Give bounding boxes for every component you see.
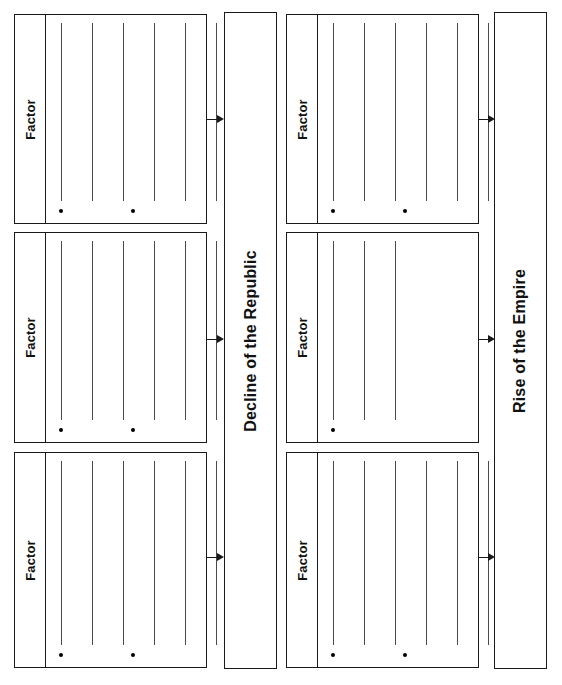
factor-write-area[interactable] bbox=[318, 453, 478, 667]
bullet-point bbox=[331, 653, 335, 657]
factor-header-strip: Factor bbox=[287, 15, 318, 223]
writing-rule bbox=[488, 23, 489, 201]
bullet-point bbox=[59, 428, 63, 432]
writing-rule bbox=[154, 241, 155, 420]
writing-rule bbox=[92, 241, 93, 420]
arrow-head bbox=[488, 553, 495, 561]
factor-card-left-factor-1[interactable]: Factor bbox=[14, 14, 207, 224]
connector-arrow-icon bbox=[479, 334, 495, 345]
writing-rule bbox=[395, 23, 396, 201]
writing-rule bbox=[333, 23, 334, 201]
factor-card-right-factor-3[interactable]: Factor bbox=[286, 452, 479, 668]
outcome-label: Decline of the Republic bbox=[242, 250, 260, 432]
arrow-head bbox=[488, 115, 495, 123]
factor-card-left-factor-2[interactable]: Factor bbox=[14, 232, 207, 443]
factor-header-strip: Factor bbox=[15, 15, 46, 223]
factor-header-strip: Factor bbox=[287, 233, 318, 442]
arrow-shaft bbox=[207, 557, 217, 558]
arrow-head bbox=[217, 553, 224, 561]
arrow-shaft bbox=[207, 339, 217, 340]
connector-arrow-icon bbox=[479, 114, 495, 125]
factor-card-left-factor-3[interactable]: Factor bbox=[14, 452, 207, 668]
outcome-box-rise-of-the-empire[interactable]: Rise of the Empire bbox=[494, 12, 547, 669]
factor-write-area[interactable] bbox=[318, 233, 478, 442]
connector-arrow-icon bbox=[207, 334, 224, 345]
connector-arrow-icon bbox=[207, 552, 224, 563]
arrow-shaft bbox=[479, 339, 488, 340]
writing-rule bbox=[395, 241, 396, 420]
arrow-head bbox=[488, 335, 495, 343]
factor-write-area[interactable] bbox=[318, 15, 478, 223]
factor-header-strip: Factor bbox=[15, 453, 46, 667]
bullet-point bbox=[131, 653, 135, 657]
bullet-point bbox=[59, 653, 63, 657]
factor-write-area[interactable] bbox=[46, 15, 206, 223]
writing-rule bbox=[457, 23, 458, 201]
graphic-organizer-worksheet: Decline of the RepublicFactorFactorFacto… bbox=[0, 0, 562, 685]
bullet-point bbox=[131, 428, 135, 432]
bullet-point bbox=[331, 428, 335, 432]
bullet-point bbox=[403, 653, 407, 657]
factor-write-area[interactable] bbox=[46, 233, 206, 442]
writing-rule bbox=[426, 23, 427, 201]
arrow-head bbox=[217, 335, 224, 343]
writing-rule bbox=[185, 23, 186, 201]
writing-rule bbox=[216, 241, 217, 420]
factor-header-strip: Factor bbox=[15, 233, 46, 442]
factor-write-area[interactable] bbox=[46, 453, 206, 667]
writing-rule bbox=[364, 23, 365, 201]
factor-header-strip: Factor bbox=[287, 453, 318, 667]
writing-rule bbox=[185, 241, 186, 420]
writing-rule bbox=[154, 461, 155, 645]
writing-rule bbox=[333, 461, 334, 645]
writing-rule bbox=[185, 461, 186, 645]
writing-rule bbox=[92, 461, 93, 645]
writing-rule bbox=[61, 461, 62, 645]
writing-rule bbox=[92, 23, 93, 201]
outcome-label: Rise of the Empire bbox=[512, 268, 530, 412]
bullet-point bbox=[403, 209, 407, 213]
outcome-box-decline-of-the-republic[interactable]: Decline of the Republic bbox=[224, 12, 277, 669]
arrow-head bbox=[217, 115, 224, 123]
factor-label: Factor bbox=[23, 317, 38, 357]
writing-rule bbox=[61, 241, 62, 420]
writing-rule bbox=[364, 241, 365, 420]
bullet-point bbox=[331, 209, 335, 213]
writing-rule bbox=[61, 23, 62, 201]
connector-arrow-icon bbox=[479, 552, 495, 563]
writing-rule bbox=[216, 23, 217, 201]
writing-rule bbox=[457, 461, 458, 645]
factor-label: Factor bbox=[295, 317, 310, 357]
factor-card-right-factor-2[interactable]: Factor bbox=[286, 232, 479, 443]
writing-rule bbox=[364, 461, 365, 645]
factor-label: Factor bbox=[23, 540, 38, 580]
factor-card-right-factor-1[interactable]: Factor bbox=[286, 14, 479, 224]
factor-label: Factor bbox=[23, 99, 38, 139]
factor-label: Factor bbox=[295, 99, 310, 139]
bullet-point bbox=[131, 209, 135, 213]
connector-arrow-icon bbox=[207, 114, 224, 125]
writing-rule bbox=[154, 23, 155, 201]
factor-label: Factor bbox=[295, 540, 310, 580]
writing-rule bbox=[333, 241, 334, 420]
arrow-shaft bbox=[479, 119, 488, 120]
writing-rule bbox=[123, 241, 124, 420]
arrow-shaft bbox=[207, 119, 217, 120]
bullet-point bbox=[59, 209, 63, 213]
writing-rule bbox=[426, 461, 427, 645]
writing-rule bbox=[123, 23, 124, 201]
writing-rule bbox=[395, 461, 396, 645]
writing-rule bbox=[123, 461, 124, 645]
arrow-shaft bbox=[479, 557, 488, 558]
